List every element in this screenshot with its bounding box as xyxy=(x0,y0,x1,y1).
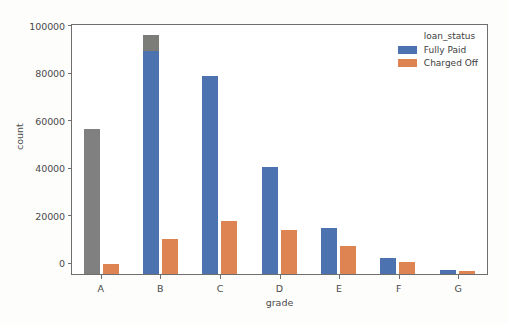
bar xyxy=(459,271,475,274)
bar-group xyxy=(131,25,190,274)
bar xyxy=(380,258,396,274)
x-axis-tick-label: D xyxy=(250,275,310,297)
legend-entries: Fully PaidCharged Off xyxy=(398,45,478,68)
x-axis-label: grade xyxy=(71,297,488,308)
bar-group xyxy=(191,25,250,274)
legend-entry: Charged Off xyxy=(398,58,478,68)
legend-title: loan_status xyxy=(398,31,478,41)
bar xyxy=(143,35,159,275)
x-axis-tick-label: E xyxy=(309,275,369,297)
y-axis-tick-label: 80000 xyxy=(35,68,72,79)
x-axis-tick-label: A xyxy=(71,275,131,297)
x-axis-ticks: ABCDEFG xyxy=(71,275,488,297)
bar xyxy=(262,167,278,274)
legend-entry: Fully Paid xyxy=(398,45,478,55)
bar xyxy=(202,76,218,274)
bar xyxy=(103,264,119,274)
x-axis-tick-label: G xyxy=(428,275,488,297)
x-axis-tick-label: C xyxy=(190,275,250,297)
bar xyxy=(221,221,237,274)
x-axis-tick-label: B xyxy=(131,275,191,297)
legend-swatch xyxy=(398,46,417,54)
y-axis-tick-label: 100000 xyxy=(29,20,72,31)
x-axis-tick-label: F xyxy=(369,275,429,297)
bar xyxy=(84,129,100,274)
bar xyxy=(162,239,178,274)
legend-swatch xyxy=(398,59,417,67)
bar xyxy=(340,246,356,274)
bar xyxy=(321,228,337,274)
bar xyxy=(440,270,456,274)
legend-label: Charged Off xyxy=(424,58,478,68)
y-axis-tick-label: 60000 xyxy=(35,115,72,126)
bar-group xyxy=(250,25,309,274)
bar-group xyxy=(309,25,368,274)
legend: loan_status Fully PaidCharged Off xyxy=(398,31,478,71)
y-axis-label: count xyxy=(14,123,25,150)
y-axis-tick-label: 20000 xyxy=(35,210,72,221)
bar xyxy=(399,262,415,274)
y-axis-tick-label: 0 xyxy=(59,258,72,269)
bar-render-artifact xyxy=(143,35,159,52)
bar-group xyxy=(72,25,131,274)
bar xyxy=(281,230,297,274)
legend-label: Fully Paid xyxy=(424,45,466,55)
figure: count 020000400006000080000100000 loan_s… xyxy=(0,0,508,325)
y-axis-tick-label: 40000 xyxy=(35,163,72,174)
plot-area: 020000400006000080000100000 loan_status … xyxy=(71,24,488,275)
